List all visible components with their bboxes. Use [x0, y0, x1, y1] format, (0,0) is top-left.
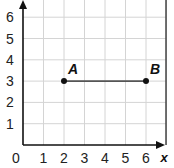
coordinate-plane: 0123456123456 x AB: [0, 0, 174, 168]
point-b: [143, 78, 149, 84]
y-tick-label: 2: [6, 94, 14, 110]
point-label: B: [150, 61, 160, 77]
y-tick-label: 6: [6, 9, 14, 25]
point-a: [61, 78, 67, 84]
x-axis: [23, 141, 165, 149]
x-tick-label: 6: [142, 150, 150, 166]
x-tick-label: 3: [81, 150, 89, 166]
x-tick-label: 0: [12, 150, 20, 166]
x-tick-label: 4: [101, 150, 109, 166]
y-axis-arrow-icon: [19, 0, 27, 9]
x-axis-arrow-icon: [156, 141, 165, 149]
tick-labels: 0123456123456: [6, 9, 150, 166]
x-axis-label: x: [159, 150, 168, 165]
y-tick-label: 3: [6, 73, 14, 89]
y-tick-label: 4: [6, 52, 14, 68]
point-label: A: [67, 61, 78, 77]
x-tick-label: 1: [40, 150, 48, 166]
grid-lines: [23, 0, 167, 145]
y-tick-label: 1: [6, 116, 14, 132]
y-tick-label: 5: [6, 31, 14, 47]
plot-layer: AB: [61, 61, 160, 84]
x-tick-label: 2: [60, 150, 68, 166]
x-tick-label: 5: [122, 150, 130, 166]
